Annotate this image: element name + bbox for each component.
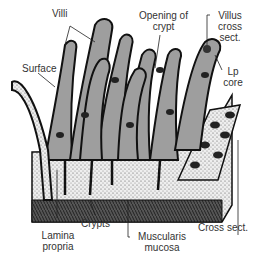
label-lp-core-line2: core (218, 77, 248, 88)
label-villus-cross-sect: Villus cross sect. (210, 10, 250, 43)
label-lamina-propria-line2: propria (38, 241, 78, 252)
label-lp-core-line1: Lp (218, 66, 248, 77)
label-lamina-propria-line1: Lamina (38, 230, 78, 241)
label-crypts: Crypts (81, 218, 110, 229)
label-lp-core: Lp core (218, 66, 248, 88)
label-opening-of-crypt-line1: Opening of (136, 10, 191, 21)
label-villus-cross-sect-line2: cross (210, 21, 250, 32)
label-villus-cross-sect-line3: sect. (210, 32, 250, 43)
label-muscularis-mucosa-line1: Muscularis (134, 231, 190, 242)
label-villus-cross-sect-line1: Villus (210, 10, 250, 21)
label-villi: Villi (52, 8, 67, 19)
label-muscularis-mucosa-line2: mucosa (134, 242, 190, 253)
villi (45, 19, 220, 160)
label-lamina-propria: Lamina propria (38, 230, 78, 252)
label-cross-sect: Cross sect. (198, 222, 248, 233)
label-muscularis-mucosa: Muscularis mucosa (134, 231, 190, 253)
label-surface: Surface (22, 63, 56, 74)
label-opening-of-crypt-line2: crypt (136, 21, 191, 32)
label-opening-of-crypt: Opening of crypt (136, 10, 191, 32)
